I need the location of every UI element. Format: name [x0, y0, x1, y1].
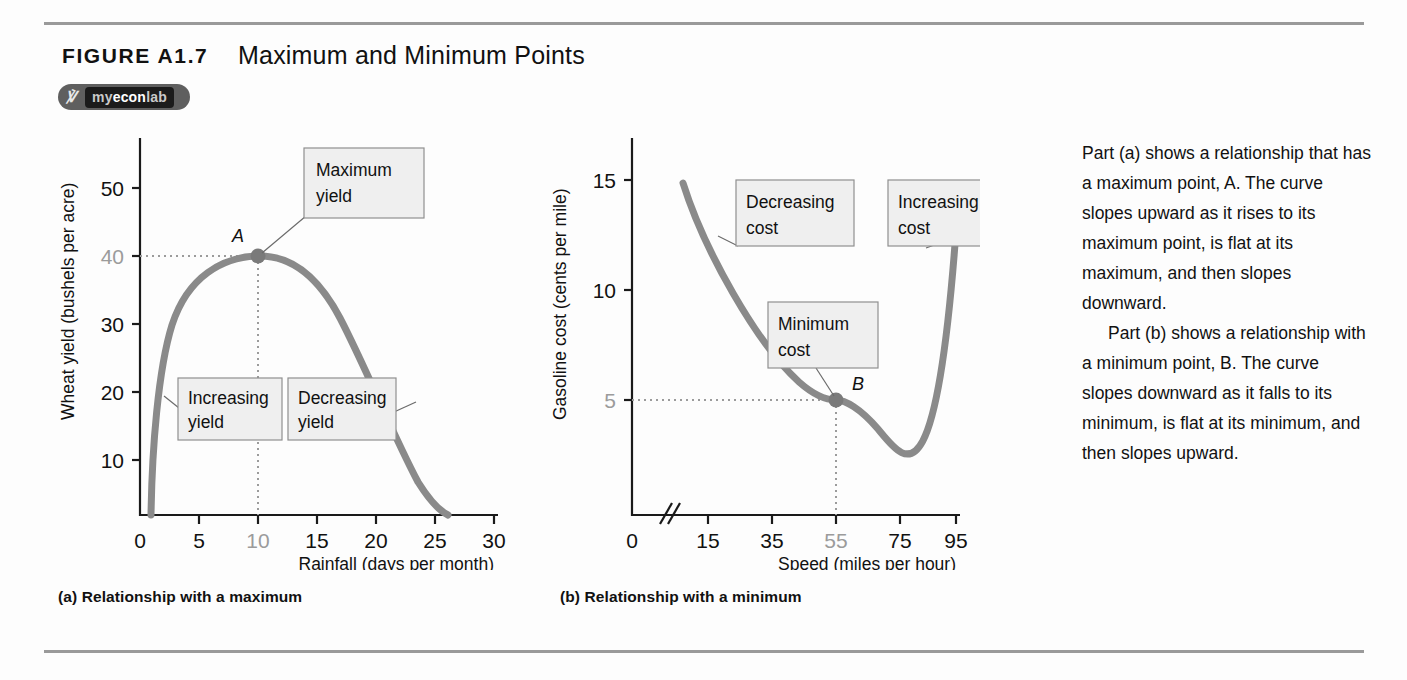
panel-a-dec-text-line1: Decreasing — [298, 388, 387, 408]
caption-panel-b: (b) Relationship with a minimum — [560, 588, 802, 606]
panel-b-xtick-0: 0 — [626, 529, 638, 552]
panel-b-ytick-10: 10 — [593, 279, 616, 302]
panel-a-xtick-20: 20 — [364, 529, 387, 552]
explanatory-text: Part (a) shows a relationship that has a… — [1082, 138, 1372, 468]
panel-b-xtick-55: 55 — [824, 529, 847, 552]
panel-b-axis-break-icon — [660, 503, 680, 524]
panel-a-xtick-0: 0 — [134, 529, 146, 552]
panel-a-xtick-5: 5 — [193, 529, 205, 552]
panel-b-ytick-5: 5 — [604, 389, 616, 412]
panel-a-callout-increasing-yield[interactable]: Increasing yield — [178, 378, 282, 440]
panel-b-point-label: B — [852, 374, 864, 394]
myeconlab-logo[interactable]: ℣ myeconlab — [58, 84, 190, 110]
panel-a-inc-text-line2: yield — [188, 412, 224, 432]
panel-b-x-axis-title: Speed (miles per hour) — [778, 554, 956, 570]
panel-b-callout-increasing-cost[interactable]: Increasing cost — [888, 180, 980, 246]
panel-b-xtick-15: 15 — [696, 529, 719, 552]
page-title: Maximum and Minimum Points — [238, 41, 585, 70]
panel-a-max-leader — [262, 216, 306, 253]
panel-b-inc-text-line2: cost — [898, 218, 930, 238]
panel-b-callout-minimum-cost[interactable]: Minimum cost — [768, 302, 878, 368]
panel-a-ytick-20: 20 — [101, 381, 124, 404]
panel-b-y-ticks — [624, 180, 632, 400]
panel-a-xtick-15: 15 — [305, 529, 328, 552]
panel-b-inc-text-line1: Increasing — [898, 192, 979, 212]
panel-a-ytick-40: 40 — [101, 245, 124, 268]
panel-a-svg: Wheat yield (bushels per acre) 50 40 30 … — [48, 120, 518, 570]
panel-a-point-label: A — [231, 226, 244, 246]
caption-panel-a: (a) Relationship with a maximum — [58, 588, 302, 606]
myeconlab-prefix: my — [92, 89, 113, 105]
top-rule — [44, 22, 1364, 25]
panel-b-point-marker — [829, 393, 844, 408]
panel-b-xtick-75: 75 — [888, 529, 911, 552]
panel-b-svg: Gasoline cost (cents per mile) 15 10 5 0… — [470, 120, 980, 570]
panel-b-min-text-line2: cost — [778, 340, 810, 360]
panel-b-xtick-95: 95 — [944, 529, 967, 552]
panel-a-max-text-line1: Maximum — [316, 160, 392, 180]
panel-a-xtick-25: 25 — [423, 529, 446, 552]
panel-b-dec-text-line2: cost — [746, 218, 778, 238]
figure-number: FIGURE A1.7 — [62, 44, 208, 68]
panel-b-dec-text-line1: Decreasing — [746, 192, 835, 212]
myeconlab-mark-icon: ℣ — [58, 88, 84, 106]
panel-a-ytick-10: 10 — [101, 449, 124, 472]
myeconlab-suffix: lab — [146, 89, 167, 105]
figure-page: FIGURE A1.7 Maximum and Minimum Points ℣… — [0, 0, 1407, 680]
panel-a-max-text-line2: yield — [316, 186, 352, 206]
panel-b-y-axis-title: Gasoline cost (cents per mile) — [550, 189, 570, 420]
panel-b-min-text-line1: Minimum — [778, 314, 849, 334]
panel-a-callout-maximum-yield[interactable]: Maximum yield — [304, 148, 424, 218]
panel-a-ytick-50: 50 — [101, 177, 124, 200]
panel-a-xtick-10: 10 — [246, 529, 269, 552]
panel-a-point-marker — [251, 249, 266, 264]
panel-a-inc-text-line1: Increasing — [188, 388, 269, 408]
bottom-rule — [44, 650, 1364, 653]
explanatory-paragraph-1: Part (a) shows a relationship that has a… — [1082, 138, 1372, 318]
panel-b-x-ticks — [708, 515, 956, 524]
panel-a-y-axis-title: Wheat yield (bushels per acre) — [58, 183, 78, 420]
panel-b-xtick-35: 35 — [760, 529, 783, 552]
myeconlab-mid: econ — [113, 89, 146, 105]
panel-b-callout-decreasing-cost[interactable]: Decreasing cost — [736, 180, 854, 246]
myeconlab-wordmark: myeconlab — [85, 87, 174, 108]
panel-a-callout-decreasing-yield[interactable]: Decreasing yield — [288, 378, 396, 440]
panel-a-y-ticks — [132, 188, 140, 460]
panel-b-dec-leader — [718, 236, 738, 246]
panel-a-x-axis-title: Rainfall (days per month) — [299, 554, 495, 570]
panel-a-dec-text-line2: yield — [298, 412, 334, 432]
panel-a-dec-leader — [394, 402, 416, 412]
panel-b-ytick-15: 15 — [593, 169, 616, 192]
panel-a-inc-leader — [164, 396, 179, 408]
explanatory-paragraph-2: Part (b) shows a relationship with a min… — [1082, 318, 1372, 468]
panel-a-ytick-30: 30 — [101, 313, 124, 336]
chart-panel-b: Gasoline cost (cents per mile) 15 10 5 0… — [470, 120, 980, 570]
chart-panel-a: Wheat yield (bushels per acre) 50 40 30 … — [48, 120, 518, 570]
